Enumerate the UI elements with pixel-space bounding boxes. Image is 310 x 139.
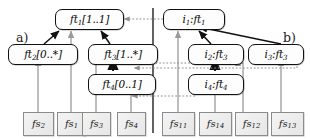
node-ft2[interactable]: ft2[0..*] <box>8 44 78 65</box>
node-i2-ft3-label: i2:ft3 <box>205 48 228 62</box>
source-fs4-label: fs4 <box>125 118 138 130</box>
node-ft2-label: ft2[0..*] <box>24 48 62 62</box>
source-fs13-label: fs13 <box>279 118 297 130</box>
node-i4-ft4[interactable]: i4:ft4 <box>188 74 244 95</box>
source-fs13[interactable]: fs13 <box>271 112 304 136</box>
source-fs14[interactable]: fs14 <box>199 112 232 136</box>
node-ft3[interactable]: ft3[1..*] <box>88 44 158 65</box>
source-fs2-label: fs2 <box>32 118 45 130</box>
source-fs4[interactable]: fs4 <box>117 112 146 136</box>
node-ft1[interactable]: ft1[1..1] <box>55 9 124 30</box>
node-ft4[interactable]: ft4[0..1] <box>88 74 156 95</box>
node-ft4-label: ft4[0..1] <box>102 78 141 92</box>
node-i3-ft3[interactable]: i3:ft3 <box>248 44 304 65</box>
source-fs12-label: fs12 <box>243 118 261 130</box>
edge-ft2-to-ft1 <box>44 31 59 44</box>
edge-ft3-to-ft1 <box>101 31 110 44</box>
source-fs12[interactable]: fs12 <box>235 112 268 136</box>
node-i1-ft1[interactable]: i1:ft1 <box>163 9 225 30</box>
source-fs3-label: fs3 <box>90 118 103 130</box>
panel-label-b: b) <box>283 30 296 45</box>
node-i3-ft3-label: i3:ft3 <box>265 48 288 62</box>
node-i1-ft1-label: i1:ft1 <box>183 13 206 27</box>
source-fs11-label: fs11 <box>170 118 188 130</box>
source-fs14-label: fs14 <box>207 118 225 130</box>
node-i4-ft4-label: i4:ft4 <box>205 78 228 92</box>
source-fs1-label: fs1 <box>65 118 78 130</box>
figure-canvas: a) b) ft1[1..1] ft2[0..*] ft3[1..*] ft4[… <box>0 0 310 139</box>
edge-i2-to-i1 <box>199 31 211 44</box>
panel-label-a: a) <box>16 30 28 45</box>
source-fs3[interactable]: fs3 <box>82 112 111 136</box>
node-i2-ft3[interactable]: i2:ft3 <box>188 44 244 65</box>
source-fs11[interactable]: fs11 <box>162 112 195 136</box>
node-ft3-label: ft3[1..*] <box>104 48 142 62</box>
source-fs2[interactable]: fs2 <box>23 112 54 136</box>
node-ft1-label: ft1[1..1] <box>70 13 109 27</box>
